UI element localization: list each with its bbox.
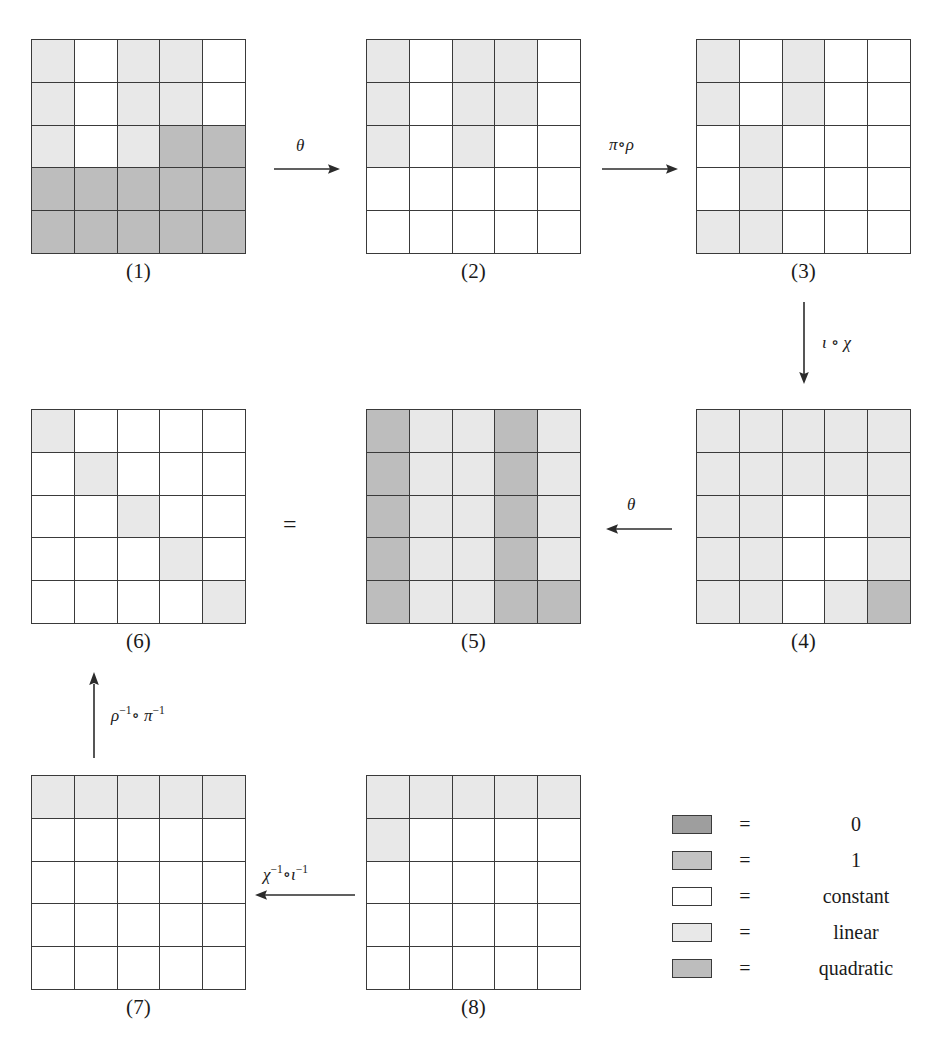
matrix-cell — [367, 904, 410, 947]
matrix-cell — [868, 40, 911, 83]
legend-label: 1 — [778, 849, 934, 872]
matrix-cell — [203, 211, 246, 254]
matrix-cell — [697, 126, 740, 169]
matrix-cell — [495, 40, 538, 83]
matrix-cell — [740, 211, 783, 254]
matrix-grid — [31, 39, 246, 254]
legend-equals: = — [712, 921, 778, 944]
matrix-5: (5) — [366, 409, 581, 624]
matrix-label: (8) — [366, 994, 581, 1020]
matrix-cell — [118, 776, 161, 819]
matrix-cell — [118, 168, 161, 211]
matrix-cell — [740, 126, 783, 169]
matrix-2: (2) — [366, 39, 581, 254]
matrix-cell — [75, 819, 118, 862]
matrix-cell — [32, 211, 75, 254]
matrix-cell — [410, 496, 453, 539]
matrix-cell — [160, 496, 203, 539]
matrix-cell — [495, 168, 538, 211]
matrix-cell — [697, 83, 740, 126]
arrow-label-theta-mid: θ — [627, 496, 635, 513]
matrix-cell — [783, 538, 826, 581]
inverse-exponent: −1 — [270, 863, 282, 876]
matrix-cell — [868, 453, 911, 496]
matrix-cell — [495, 83, 538, 126]
matrix-cell — [538, 168, 581, 211]
matrix-cell — [410, 947, 453, 990]
matrix-cell — [118, 947, 161, 990]
matrix-cell — [495, 776, 538, 819]
matrix-cell — [495, 126, 538, 169]
matrix-cell — [203, 538, 246, 581]
matrix-cell — [453, 496, 496, 539]
matrix-cell — [495, 581, 538, 624]
matrix-cell — [367, 168, 410, 211]
matrix-cell — [32, 904, 75, 947]
matrix-cell — [697, 581, 740, 624]
matrix-cell — [118, 581, 161, 624]
matrix-cell — [118, 126, 161, 169]
matrix-cell — [453, 776, 496, 819]
matrix-cell — [697, 211, 740, 254]
legend-label: quadratic — [778, 957, 934, 980]
inverse-exponent: −1 — [296, 863, 308, 876]
matrix-cell — [75, 496, 118, 539]
matrix-cell — [410, 40, 453, 83]
matrix-cell — [740, 496, 783, 539]
matrix-cell — [32, 168, 75, 211]
matrix-cell — [697, 538, 740, 581]
arrow-right-icon — [272, 158, 342, 180]
matrix-cell — [740, 83, 783, 126]
matrix-cell — [32, 83, 75, 126]
matrix-cell — [75, 126, 118, 169]
matrix-cell — [538, 453, 581, 496]
rho-symbol: ρ — [111, 706, 119, 725]
matrix-cell — [538, 410, 581, 453]
arrow-theta-mid — [604, 518, 674, 544]
matrix-cell — [453, 40, 496, 83]
matrix-cell — [410, 862, 453, 905]
matrix-cell — [825, 410, 868, 453]
matrix-cell — [32, 538, 75, 581]
matrix-cell — [367, 211, 410, 254]
matrix-cell — [203, 453, 246, 496]
matrix-cell — [160, 211, 203, 254]
matrix-grid — [31, 775, 246, 990]
matrix-cell — [160, 538, 203, 581]
legend-swatch-linear — [672, 923, 712, 942]
matrix-cell — [538, 496, 581, 539]
matrix-label: (4) — [696, 628, 911, 654]
matrix-8: (8) — [366, 775, 581, 990]
legend-swatch-constant — [672, 887, 712, 906]
matrix-cell — [538, 211, 581, 254]
legend-equals: = — [712, 813, 778, 836]
arrow-chi-iota-inverse — [253, 884, 357, 910]
matrix-cell — [367, 83, 410, 126]
legend-equals: = — [712, 849, 778, 872]
matrix-cell — [740, 538, 783, 581]
matrix-cell — [697, 410, 740, 453]
matrix-cell — [783, 83, 826, 126]
matrix-cell — [160, 168, 203, 211]
matrix-cell — [453, 581, 496, 624]
matrix-cell — [118, 40, 161, 83]
matrix-cell — [495, 496, 538, 539]
matrix-cell — [160, 862, 203, 905]
arrow-left-icon — [604, 518, 674, 540]
matrix-cell — [783, 496, 826, 539]
matrix-cell — [538, 126, 581, 169]
legend-label: linear — [778, 921, 934, 944]
matrix-7: (7) — [31, 775, 246, 990]
matrix-cell — [203, 126, 246, 169]
matrix-cell — [697, 40, 740, 83]
matrix-cell — [203, 40, 246, 83]
matrix-cell — [868, 83, 911, 126]
matrix-cell — [367, 776, 410, 819]
matrix-cell — [75, 453, 118, 496]
matrix-cell — [740, 168, 783, 211]
arrow-right-icon — [600, 158, 680, 180]
legend-label: 0 — [778, 813, 934, 836]
matrix-label: (1) — [31, 258, 246, 284]
matrix-cell — [118, 211, 161, 254]
matrix-cell — [697, 496, 740, 539]
